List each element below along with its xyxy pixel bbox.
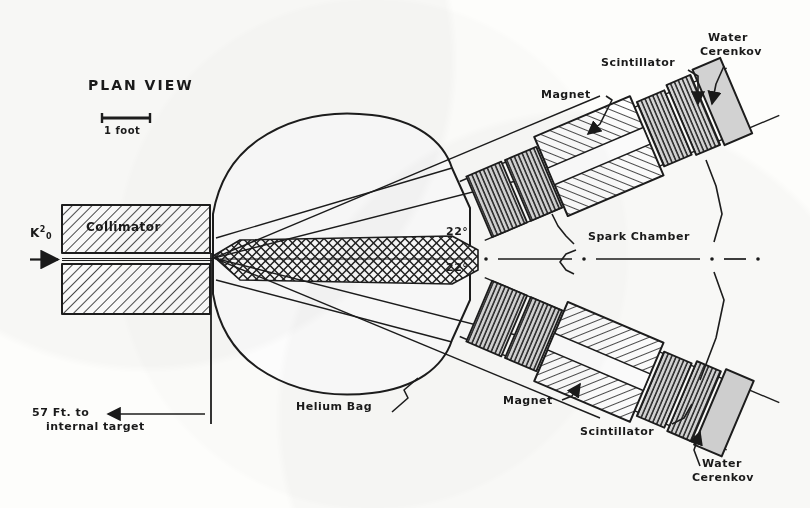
scale-bar-label: 1 foot — [104, 125, 140, 136]
distance-note-line-1: 57 Ft. to — [32, 406, 145, 420]
upper-detector-arm — [455, 45, 783, 249]
water-cerenkov-upper-line-2: Cerenkov — [700, 45, 762, 59]
magnet-label-upper: Magnet — [541, 89, 591, 101]
page-title: PLAN VIEW — [88, 78, 194, 94]
angle-label-upper: 22° — [446, 226, 468, 238]
beam-channel — [62, 259, 212, 261]
beam-particle-subscript: 0 — [46, 232, 52, 241]
distance-note: 57 Ft. to internal target — [32, 406, 145, 434]
collimator-label: Collimator — [86, 221, 161, 234]
scintillator-label-lower: Scintillator — [580, 426, 654, 438]
angle-label-lower: 22° — [446, 262, 468, 274]
distance-note-line-2: internal target — [32, 420, 145, 434]
water-cerenkov-lower-line-2: Cerenkov — [692, 471, 754, 485]
spark-chamber-label: Spark Chamber — [588, 231, 690, 243]
scale-bar — [102, 113, 150, 123]
beam-particle-label: K20 — [30, 226, 52, 242]
helium-bag-label: Helium Bag — [296, 401, 372, 413]
water-cerenkov-label-lower: Water Cerenkov — [702, 457, 754, 485]
magnet-label-lower: Magnet — [503, 395, 553, 407]
scintillator-label-upper: Scintillator — [601, 57, 675, 69]
water-cerenkov-lower-line-1: Water — [702, 457, 754, 471]
beam-particle-symbol: K — [30, 226, 40, 240]
decay-volume — [213, 236, 478, 284]
lower-detector-arm — [455, 268, 783, 472]
water-cerenkov-upper-line-1: Water — [700, 31, 762, 45]
water-cerenkov-label-upper: Water Cerenkov — [700, 31, 762, 59]
